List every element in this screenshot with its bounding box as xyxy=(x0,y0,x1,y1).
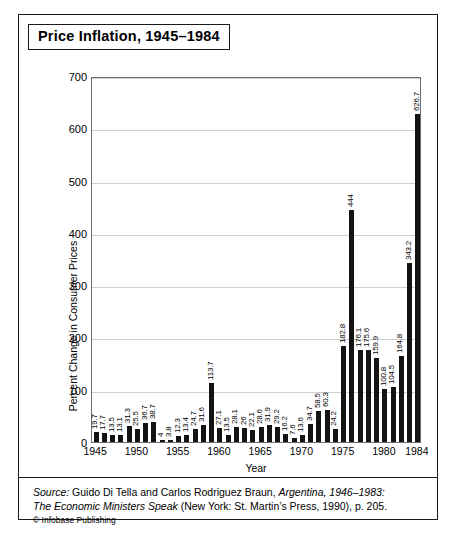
bar[interactable] xyxy=(391,387,396,442)
bar-value-label: 113.7 xyxy=(207,361,215,379)
source-publication: (New York: St. Martin’s Press, 1990), p.… xyxy=(178,500,387,512)
source-note: Source: Guido Di Tella and Carlos Rodrig… xyxy=(33,485,425,513)
bar-value-label: 24.2 xyxy=(331,412,339,427)
bar[interactable] xyxy=(127,426,132,442)
x-tick-label: 1975 xyxy=(331,445,354,457)
source-authors: Guido Di Tella and Carlos Rodriguez Brau… xyxy=(69,486,278,498)
source-label: Source: xyxy=(33,486,69,498)
bar[interactable] xyxy=(242,428,247,442)
y-tick-label: 700 xyxy=(69,71,87,83)
bar[interactable] xyxy=(193,429,198,442)
footer-divider xyxy=(19,477,437,478)
y-tick-label: 400 xyxy=(69,228,87,240)
x-tick-label: 1955 xyxy=(166,445,189,457)
copyright-note: © Infobase Publishing xyxy=(33,515,116,525)
x-tick-label: 1950 xyxy=(125,445,148,457)
bar-value-label: 626.7 xyxy=(413,92,421,111)
y-axis-ticks: 0100200300400500600700 xyxy=(55,77,87,443)
x-axis-ticks: 194519501955196019651970197519801984 xyxy=(91,445,421,461)
bar-value-label: 60.3 xyxy=(322,393,330,408)
bar[interactable] xyxy=(135,429,140,442)
bar-value-label: 182.8 xyxy=(339,324,347,343)
y-tick-label: 500 xyxy=(69,176,87,188)
bar[interactable] xyxy=(308,424,313,442)
bar[interactable] xyxy=(168,440,173,442)
bar[interactable] xyxy=(102,433,107,442)
bar[interactable] xyxy=(358,350,363,442)
bar[interactable] xyxy=(267,425,272,442)
bar[interactable] xyxy=(94,432,99,442)
source-title-part1: Argentina, 1946–1983: xyxy=(279,486,385,498)
x-axis-title: Year xyxy=(91,462,421,474)
bar[interactable] xyxy=(184,435,189,442)
bar[interactable] xyxy=(226,435,231,442)
bar-value-label: 444 xyxy=(347,194,355,207)
y-axis-title-holder: Percent Change in Consumer Prices xyxy=(41,165,55,285)
bar[interactable] xyxy=(250,430,255,442)
x-tick-label: 1970 xyxy=(290,445,313,457)
bar[interactable] xyxy=(176,436,181,442)
y-tick-label: 300 xyxy=(69,280,87,292)
bar[interactable] xyxy=(349,210,354,442)
chart-title-box: Price Inflation, 1945–1984 xyxy=(28,24,230,50)
bar[interactable] xyxy=(366,350,371,442)
x-tick-label: 1965 xyxy=(248,445,271,457)
bar[interactable] xyxy=(201,425,206,442)
bar[interactable] xyxy=(118,435,123,442)
bar-value-label: 164.8 xyxy=(397,334,405,353)
bar[interactable] xyxy=(259,427,264,442)
x-tick-label: 1980 xyxy=(372,445,395,457)
x-tick-label: 1960 xyxy=(207,445,230,457)
bar[interactable] xyxy=(399,356,404,442)
bar[interactable] xyxy=(316,411,321,442)
page-title: Price Inflation, 1945–1984 xyxy=(38,29,220,44)
bar[interactable] xyxy=(234,427,239,442)
bar[interactable] xyxy=(292,438,297,442)
x-tick-label: 1945 xyxy=(83,445,106,457)
x-tick-label: 1984 xyxy=(405,445,428,457)
bar-value-label: 34.7 xyxy=(306,406,314,421)
bar[interactable] xyxy=(300,435,305,442)
source-title-part2: The Economic Ministers Speak xyxy=(33,500,178,512)
bar[interactable] xyxy=(151,422,156,442)
bar-value-label: 159.9 xyxy=(372,336,380,355)
bar-value-label: 38.7 xyxy=(149,404,157,419)
bar[interactable] xyxy=(341,346,346,442)
bar[interactable] xyxy=(333,429,338,442)
chart-figure: Price Inflation, 1945–1984 Percent Chang… xyxy=(18,14,438,520)
bar[interactable] xyxy=(382,389,387,442)
bar[interactable] xyxy=(160,440,165,442)
y-tick-label: 200 xyxy=(69,332,87,344)
bar-value-label: 31.6 xyxy=(199,408,207,423)
bar[interactable] xyxy=(415,114,420,442)
plot-area: 19.717.713.513.131.325.536.738.743.812.3… xyxy=(91,77,421,443)
y-tick-label: 100 xyxy=(69,385,87,397)
y-tick-label: 600 xyxy=(69,123,87,135)
bar-value-label: 104.5 xyxy=(388,365,396,384)
bar-value-label: 343.2 xyxy=(405,241,413,260)
bar[interactable] xyxy=(143,423,148,442)
bar-series: 19.717.713.513.131.325.536.738.743.812.3… xyxy=(92,78,420,442)
bar[interactable] xyxy=(407,263,412,442)
bar[interactable] xyxy=(110,435,115,442)
